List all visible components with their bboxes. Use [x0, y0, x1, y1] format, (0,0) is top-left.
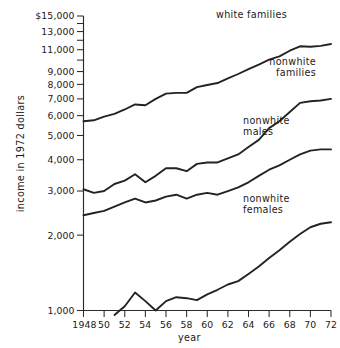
series-label-nonwhite-females: nonwhite females: [243, 194, 290, 215]
series-line-nonwhite-females: [114, 222, 331, 315]
x-axis-ticks: [84, 311, 332, 318]
y-tick-label-7000: 7,000: [0, 94, 75, 103]
y-tick-label-5000: 5,000: [0, 131, 75, 140]
series-line-nonwhite-families: [84, 99, 332, 193]
y-tick-label-2000: 2,000: [0, 231, 75, 240]
series-label-white-families-text: white families: [216, 10, 287, 21]
x-axis-title: year: [178, 332, 201, 343]
series-label-white-families: white families: [216, 10, 287, 21]
x-tick-label-1972: 72: [311, 320, 340, 329]
series-label-nonwhite-families: nonwhite families: [243, 57, 316, 78]
y-tick-label-11000: 11,000: [0, 45, 75, 54]
y-tick-label-3000: 3,000: [0, 186, 75, 195]
y-tick-label-9000: 9,000: [0, 67, 75, 76]
series-label-nonwhite-families-line2: families: [243, 68, 316, 79]
data-series-group: [84, 44, 332, 315]
y-axis-title: income in 1972 dollars: [15, 79, 26, 229]
y-axis-ticks: [77, 16, 84, 311]
series-label-nonwhite-males: nonwhite males: [243, 116, 290, 137]
series-label-nonwhite-females-line2: females: [243, 205, 290, 216]
y-tick-label-8000: 8,000: [0, 80, 75, 89]
y-tick-label-15000: $15,000: [0, 11, 75, 20]
income-line-chart: $15,00013,00011,0009,0008,0007,0006,0005…: [0, 0, 340, 348]
y-tick-label-13000: 13,000: [0, 27, 75, 36]
y-tick-label-6000: 6,000: [0, 111, 75, 120]
y-tick-label-1000: 1,000: [0, 306, 75, 315]
series-label-nonwhite-males-line2: males: [243, 127, 290, 138]
y-tick-label-4000: 4,000: [0, 155, 75, 164]
